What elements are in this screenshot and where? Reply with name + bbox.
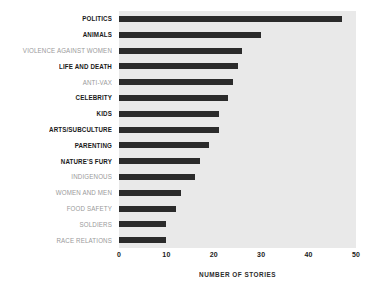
category-label: RACE RELATIONS bbox=[0, 236, 112, 244]
bar-row bbox=[119, 237, 356, 243]
category-label: CELEBRITY bbox=[0, 94, 112, 102]
category-label: SOLDIERS bbox=[0, 220, 112, 228]
bar-row bbox=[119, 48, 356, 54]
bar bbox=[119, 237, 166, 243]
category-label: NATURE'S FURY bbox=[0, 157, 112, 165]
x-axis-tick-label: 50 bbox=[352, 250, 360, 258]
x-axis-tick-label: 0 bbox=[117, 250, 121, 258]
bar-row bbox=[119, 63, 356, 69]
bar bbox=[119, 174, 195, 180]
bar-row bbox=[119, 111, 356, 117]
bar bbox=[119, 63, 238, 69]
x-axis-tick-label: 30 bbox=[257, 250, 265, 258]
bar bbox=[119, 142, 209, 148]
x-axis-tick-label: 20 bbox=[210, 250, 218, 258]
bar-row bbox=[119, 79, 356, 85]
bar bbox=[119, 190, 181, 196]
category-label: LIFE AND DEATH bbox=[0, 62, 112, 70]
x-axis-tick-label: 10 bbox=[162, 250, 170, 258]
bar bbox=[119, 127, 219, 133]
bar-row bbox=[119, 190, 356, 196]
bar-row bbox=[119, 127, 356, 133]
category-label: FOOD SAFETY bbox=[0, 204, 112, 212]
bar-row bbox=[119, 95, 356, 101]
bar bbox=[119, 95, 228, 101]
x-axis-title: NUMBER OF STORIES bbox=[119, 270, 356, 278]
bar bbox=[119, 32, 261, 38]
plot-area bbox=[119, 11, 356, 248]
bar bbox=[119, 16, 342, 22]
bar-row bbox=[119, 158, 356, 164]
bar-chart: POLITICSANIMALSVIOLENCE AGAINST WOMENLIF… bbox=[0, 0, 374, 292]
category-label: VIOLENCE AGAINST WOMEN bbox=[0, 46, 112, 54]
bar bbox=[119, 206, 176, 212]
category-label: INDIGENOUS bbox=[0, 173, 112, 181]
bar bbox=[119, 221, 166, 227]
category-label: KIDS bbox=[0, 110, 112, 118]
bar-row bbox=[119, 16, 356, 22]
value-axis: 01020304050 bbox=[119, 250, 356, 264]
bar bbox=[119, 111, 219, 117]
category-label: ANIMALS bbox=[0, 31, 112, 39]
bar-row bbox=[119, 142, 356, 148]
category-axis: POLITICSANIMALSVIOLENCE AGAINST WOMENLIF… bbox=[0, 11, 116, 248]
category-label: ARTS/SUBCULTURE bbox=[0, 125, 112, 133]
x-axis-tick-label: 40 bbox=[305, 250, 313, 258]
bar-row bbox=[119, 221, 356, 227]
category-label: POLITICS bbox=[0, 15, 112, 23]
category-label: ANTI-VAX bbox=[0, 78, 112, 86]
bar-row bbox=[119, 32, 356, 38]
category-label: WOMEN AND MEN bbox=[0, 189, 112, 197]
category-label: PARENTING bbox=[0, 141, 112, 149]
bar-row bbox=[119, 206, 356, 212]
bar bbox=[119, 79, 233, 85]
bar-row bbox=[119, 174, 356, 180]
bar bbox=[119, 48, 242, 54]
bar bbox=[119, 158, 200, 164]
